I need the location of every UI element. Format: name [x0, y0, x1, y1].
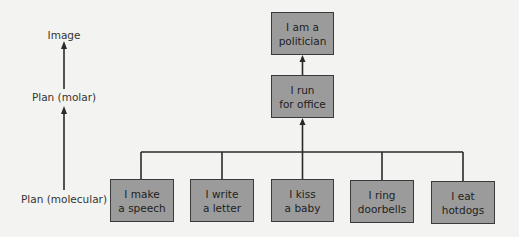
node-label: I ring doorbells [358, 188, 406, 216]
node-molecular-kiss-baby: I kiss a baby [271, 179, 334, 222]
node-molecular-doorbells: I ring doorbells [350, 180, 414, 223]
level-label-plan-molar: Plan (molar) [32, 91, 96, 103]
level-label-plan-molecular: Plan (molecular) [21, 193, 107, 205]
node-molar-run-for-office: I run for office [271, 75, 334, 118]
node-label: I run for office [279, 83, 326, 111]
node-label: I kiss a baby [285, 187, 321, 215]
node-molecular-speech: I make a speech [110, 179, 174, 222]
node-label: I write a letter [203, 187, 241, 215]
node-label: I eat hotdogs [442, 189, 484, 217]
node-label: I am a politician [279, 20, 327, 48]
node-label: I make a speech [118, 187, 165, 215]
node-image-politician: I am a politician [271, 12, 334, 55]
level-label-image: Image [48, 29, 81, 41]
node-molecular-hotdogs: I eat hotdogs [431, 181, 495, 224]
node-molecular-letter: I write a letter [190, 179, 254, 222]
